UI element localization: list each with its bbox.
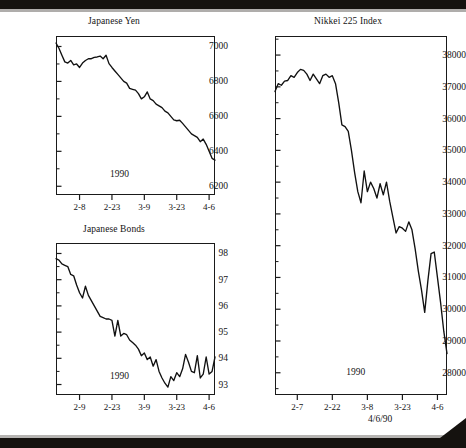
x-axis-tick-label: 4-6 xyxy=(431,402,443,412)
y-axis-tick-label: 30000 xyxy=(427,304,466,314)
x-axis-tick-label: 4-6 xyxy=(203,402,215,412)
footer-date: 4/6/90 xyxy=(368,414,392,424)
x-axis-tick-label: 2-8 xyxy=(74,202,86,212)
y-axis-tick-label: 29000 xyxy=(427,336,466,346)
y-axis-tick-label: 28000 xyxy=(427,368,466,378)
y-axis-tick-label: 36000 xyxy=(427,114,466,124)
scan-border-bottom xyxy=(0,438,466,448)
year-label: 1990 xyxy=(110,169,129,179)
y-axis-tick-label: 34000 xyxy=(427,177,466,187)
x-axis-tick-label: 2-7 xyxy=(291,402,303,412)
y-axis-tick-label: 33000 xyxy=(427,209,466,219)
y-axis-tick-label: 6400 xyxy=(178,146,228,156)
year-label: 1990 xyxy=(110,371,129,381)
x-axis-tick-label: 2-23 xyxy=(104,402,121,412)
x-axis-tick-label: 3-9 xyxy=(138,202,150,212)
series-line xyxy=(56,43,215,160)
x-axis-tick-label: 3-8 xyxy=(361,402,373,412)
y-axis-tick-label: 93 xyxy=(178,380,228,390)
x-axis-tick-label: 3-23 xyxy=(394,402,411,412)
y-axis-tick-label: 32000 xyxy=(427,241,466,251)
x-axis-tick-label: 3-23 xyxy=(168,202,185,212)
y-axis-tick-label: 38000 xyxy=(427,50,466,60)
x-axis-tick-label: 2-22 xyxy=(324,402,341,412)
year-label: 1990 xyxy=(346,367,365,377)
y-axis-tick-label: 95 xyxy=(178,327,228,337)
x-axis-tick-label: 4-6 xyxy=(203,202,215,212)
y-axis-tick-label: 37000 xyxy=(427,82,466,92)
y-axis-tick-label: 7000 xyxy=(178,41,228,51)
y-axis-tick-label: 98 xyxy=(178,248,228,258)
series-line xyxy=(275,69,447,353)
x-axis-tick-label: 2-9 xyxy=(74,402,86,412)
x-axis-tick-label: 2-23 xyxy=(104,202,121,212)
y-axis-tick-label: 6200 xyxy=(178,181,228,191)
scan-border-top xyxy=(0,0,466,9)
chart-panel-nikkei-225: Nikkei 225 Index 4/6/90 3800037000360003… xyxy=(230,14,466,438)
y-axis-tick-label: 6800 xyxy=(178,76,228,86)
y-axis-tick-label: 94 xyxy=(178,353,228,363)
x-axis-tick-label: 3-23 xyxy=(168,402,185,412)
chart-panel-japanese-bonds: Japanese Bonds 9897969594932-92-233-93-2… xyxy=(0,224,228,438)
y-axis-tick-label: 97 xyxy=(178,275,228,285)
y-axis-tick-label: 96 xyxy=(178,301,228,311)
y-axis-tick-label: 6600 xyxy=(178,111,228,121)
chart-panel-japanese-yen: Japanese Yen 700068006600640062002-82-23… xyxy=(0,14,228,220)
y-axis-tick-label: 31000 xyxy=(427,272,466,282)
x-axis-tick-label: 3-9 xyxy=(138,402,150,412)
y-axis-tick-label: 35000 xyxy=(427,145,466,155)
